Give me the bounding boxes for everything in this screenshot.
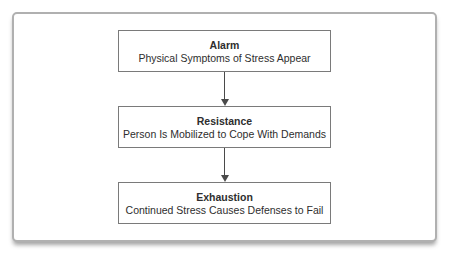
node-title: Alarm xyxy=(210,38,240,52)
flow-node-exhaustion: Exhaustion Continued Stress Causes Defen… xyxy=(118,182,331,224)
down-arrow-icon xyxy=(221,148,229,182)
flow-node-alarm: Alarm Physical Symptoms of Stress Appear xyxy=(118,30,331,72)
diagram-frame: Alarm Physical Symptoms of Stress Appear… xyxy=(12,12,437,242)
node-subtitle: Continued Stress Causes Defenses to Fail xyxy=(126,204,324,217)
arrow-shaft xyxy=(224,148,225,175)
node-title: Exhaustion xyxy=(196,190,253,204)
node-subtitle: Person Is Mobilized to Cope With Demands xyxy=(123,128,326,141)
arrow-head xyxy=(221,175,229,182)
arrow-head xyxy=(221,99,229,106)
diagram-canvas: Alarm Physical Symptoms of Stress Appear… xyxy=(0,0,452,263)
flow-node-resistance: Resistance Person Is Mobilized to Cope W… xyxy=(118,106,331,148)
down-arrow-icon xyxy=(221,72,229,106)
arrow-shaft xyxy=(224,72,225,99)
node-subtitle: Physical Symptoms of Stress Appear xyxy=(138,52,310,65)
node-title: Resistance xyxy=(197,114,252,128)
